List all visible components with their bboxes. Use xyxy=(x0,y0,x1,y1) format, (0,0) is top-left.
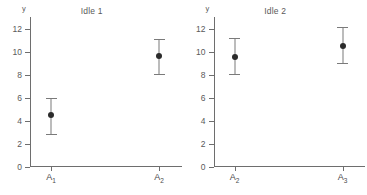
y-tick: 6 xyxy=(25,98,30,99)
plot-area-1: 024681012A2A3 xyxy=(214,17,364,167)
y-tick-label: 4 xyxy=(17,116,22,126)
figure: Idle 1 y 024681012A1A2 Idle 2 y 02468101… xyxy=(0,0,367,195)
y-tick-label: 12 xyxy=(13,24,22,34)
y-tick-label: 6 xyxy=(201,93,206,103)
panel-idle-2: Idle 2 y 024681012A2A3 xyxy=(184,0,367,195)
error-bar-cap-bottom xyxy=(46,134,57,135)
y-tick: 6 xyxy=(209,98,214,99)
y-axis-line xyxy=(30,17,31,167)
plot-area-0: 024681012A1A2 xyxy=(30,17,180,167)
x-tick-label: A3 xyxy=(338,172,348,184)
y-tick-label: 12 xyxy=(196,24,205,34)
error-bar-cap-bottom xyxy=(229,74,240,75)
y-tick: 8 xyxy=(25,75,30,76)
data-point-marker xyxy=(232,54,238,60)
y-tick-label: 4 xyxy=(201,116,206,126)
y-tick-label: 2 xyxy=(201,139,206,149)
y-tick: 10 xyxy=(209,52,214,53)
y-axis-line xyxy=(214,17,215,167)
data-point-marker xyxy=(48,112,54,118)
y-tick: 2 xyxy=(25,144,30,145)
panel-title: Idle 2 xyxy=(184,6,367,16)
error-bar-cap-top xyxy=(337,27,348,28)
data-point-marker xyxy=(156,53,162,59)
x-tick xyxy=(159,167,160,171)
x-tick-label: A1 xyxy=(46,172,56,184)
y-tick-label: 8 xyxy=(17,70,22,80)
x-tick xyxy=(343,167,344,171)
error-bar-cap-bottom xyxy=(337,63,348,64)
error-bar-cap-top xyxy=(46,98,57,99)
panel-title: Idle 1 xyxy=(0,6,184,16)
y-tick-label: 0 xyxy=(201,162,206,172)
error-bar-cap-top xyxy=(229,38,240,39)
y-tick-label: 2 xyxy=(17,139,22,149)
x-tick xyxy=(51,167,52,171)
y-axis-label: y xyxy=(22,4,26,13)
y-tick-label: 10 xyxy=(196,47,205,57)
x-tick-label: A2 xyxy=(230,172,240,184)
y-tick: 0 xyxy=(25,167,30,168)
x-tick xyxy=(235,167,236,171)
y-tick: 2 xyxy=(209,144,214,145)
error-bar-cap-bottom xyxy=(154,74,165,75)
y-axis-label: y xyxy=(206,4,210,13)
y-tick: 12 xyxy=(209,29,214,30)
y-tick-label: 8 xyxy=(201,70,206,80)
data-point-marker xyxy=(340,43,346,49)
y-tick: 0 xyxy=(209,167,214,168)
panel-idle-1: Idle 1 y 024681012A1A2 xyxy=(0,0,184,195)
y-tick: 4 xyxy=(209,121,214,122)
y-tick-label: 6 xyxy=(17,93,22,103)
y-tick-label: 10 xyxy=(13,47,22,57)
x-tick-label: A2 xyxy=(154,172,164,184)
error-bar-cap-top xyxy=(154,39,165,40)
y-tick: 10 xyxy=(25,52,30,53)
y-tick: 12 xyxy=(25,29,30,30)
y-tick-label: 0 xyxy=(17,162,22,172)
y-tick: 4 xyxy=(25,121,30,122)
y-tick: 8 xyxy=(209,75,214,76)
